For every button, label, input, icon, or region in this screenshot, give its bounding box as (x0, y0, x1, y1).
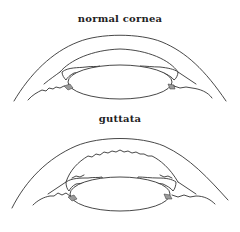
guttata-panel (12, 139, 228, 212)
ciliary-left-guttata (33, 193, 70, 205)
eye-cross-sections (0, 0, 240, 232)
left-limbus (44, 72, 60, 84)
ciliary-right-guttata (172, 195, 215, 204)
lens (68, 65, 172, 99)
right-limbus-guttata (178, 182, 196, 194)
ciliary-left (28, 86, 64, 100)
lens-guttata (70, 177, 170, 211)
left-limbus-guttata (48, 182, 66, 194)
right-limbus (178, 72, 196, 84)
ciliary-right (174, 86, 212, 98)
normal-cornea-panel (14, 35, 226, 101)
cornea-comparison-diagram: normal cornea guttata (0, 0, 240, 232)
